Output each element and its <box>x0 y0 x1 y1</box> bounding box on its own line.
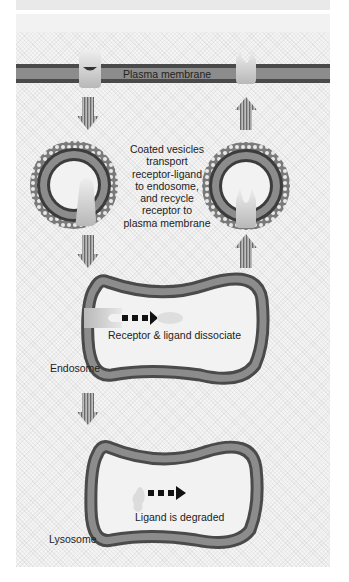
down-arrow-icon <box>77 235 99 268</box>
caption-line: to endosome, <box>117 180 217 192</box>
receptor-icon <box>236 50 256 84</box>
caption-line: plasma membrane <box>117 217 217 229</box>
plasma-membrane-label: Plasma membrane <box>123 68 211 80</box>
endosome-label: Endosome <box>50 362 100 374</box>
dissociate-label: Receptor & ligand dissociate <box>108 329 241 341</box>
up-arrow-icon <box>235 97 257 130</box>
down-arrow-icon <box>77 97 99 130</box>
caption-line: receptor-ligand <box>117 168 217 180</box>
caption-line: receptor to <box>117 204 217 216</box>
caption-line: transport <box>117 155 217 167</box>
caption-line: and recycle <box>117 192 217 204</box>
lysosome-label: Lysosome <box>49 533 96 545</box>
endocytosis-diagram <box>0 0 349 582</box>
degraded-label: Ligand is degraded <box>135 511 224 523</box>
down-arrow-icon <box>77 393 99 425</box>
coated-vesicles-caption: Coated vesicles transport receptor-ligan… <box>117 143 217 229</box>
receptor-ligand-icon <box>79 50 101 88</box>
coated-vesicle-icon <box>30 141 118 229</box>
caption-line: Coated vesicles <box>117 143 217 155</box>
up-arrow-icon <box>235 234 257 268</box>
ligand-icon <box>157 312 183 324</box>
lysosome <box>91 447 257 543</box>
